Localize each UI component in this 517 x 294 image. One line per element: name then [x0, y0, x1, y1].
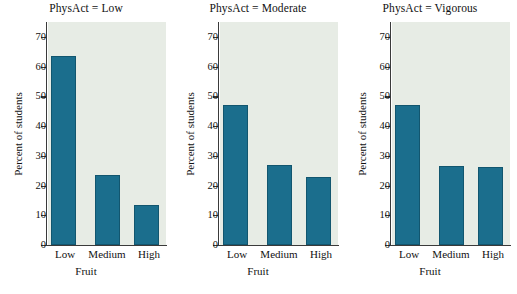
y-tick-label: 30 — [180, 151, 218, 161]
x-axis-line — [46, 245, 167, 246]
y-tick-label: 70 — [180, 32, 218, 42]
y-tick-label: 40 — [8, 121, 46, 131]
y-tick-label: 30 — [8, 151, 46, 161]
y-tick-label: 20 — [180, 181, 218, 191]
panel-title: PhysAct = Vigorous — [344, 2, 516, 14]
multi-panel-bar-chart: PhysAct = Low Percent of students 010203… — [0, 0, 517, 294]
bar — [478, 167, 503, 245]
x-axis-label: Fruit — [344, 265, 516, 277]
y-tick-label: 60 — [8, 62, 46, 72]
chart-panel-moderate: PhysAct = Moderate Percent of students 0… — [172, 0, 344, 294]
bar — [223, 105, 248, 245]
x-tick-label: High — [122, 248, 176, 260]
x-tick-label: High — [466, 248, 517, 260]
y-tick-label: 30 — [352, 151, 390, 161]
bar — [306, 177, 331, 245]
bar-group — [48, 22, 166, 245]
y-tick-label: 60 — [180, 62, 218, 72]
y-tick-label: 20 — [8, 181, 46, 191]
x-tick-labels: LowMediumHigh — [216, 248, 342, 264]
panel-title: PhysAct = Low — [0, 2, 172, 14]
bar — [267, 165, 292, 245]
y-tick-label: 10 — [180, 210, 218, 220]
y-tick-label: 60 — [352, 62, 390, 72]
x-axis-line — [218, 245, 339, 246]
x-tick-labels: LowMediumHigh — [388, 248, 514, 264]
bar — [439, 166, 464, 245]
y-tick-label: 40 — [352, 121, 390, 131]
y-tick-label: 50 — [8, 91, 46, 101]
x-tick-label: High — [294, 248, 348, 260]
y-tick-label: 10 — [352, 210, 390, 220]
bar-group — [220, 22, 338, 245]
chart-panel-low: PhysAct = Low Percent of students 010203… — [0, 0, 172, 294]
panel-title: PhysAct = Moderate — [172, 2, 344, 14]
bar — [51, 56, 76, 245]
y-tick-label: 10 — [8, 210, 46, 220]
chart-panel-vigorous: PhysAct = Vigorous Percent of students 0… — [344, 0, 516, 294]
x-tick-labels: LowMediumHigh — [44, 248, 170, 264]
y-tick-label: 70 — [352, 32, 390, 42]
y-tick-label: 50 — [352, 91, 390, 101]
bar-group — [392, 22, 510, 245]
bar — [134, 205, 159, 245]
y-tick-label: 50 — [180, 91, 218, 101]
bar — [395, 105, 420, 245]
x-axis-label: Fruit — [0, 265, 172, 277]
x-axis-label: Fruit — [172, 265, 344, 277]
bar — [95, 175, 120, 245]
y-tick-label: 70 — [8, 32, 46, 42]
y-tick-label: 40 — [180, 121, 218, 131]
x-axis-line — [390, 245, 511, 246]
y-tick-label: 20 — [352, 181, 390, 191]
